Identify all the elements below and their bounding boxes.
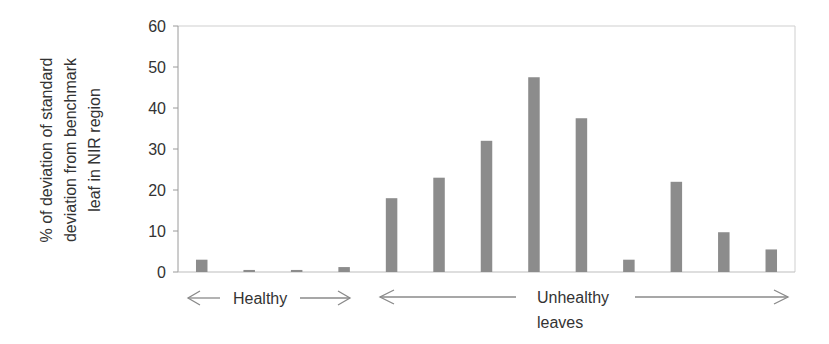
- bars: [196, 77, 777, 272]
- healthy-label: Healthy: [233, 290, 287, 307]
- bar-13: [766, 249, 778, 272]
- bar-1: [196, 260, 208, 272]
- bar-4: [338, 267, 350, 272]
- unhealthy-label-line-2: leaves: [537, 314, 583, 331]
- unhealthy-label: Unhealthy: [537, 289, 609, 306]
- bar-5: [386, 198, 398, 272]
- y-axis-ticks: 0102030405060: [148, 18, 178, 281]
- y-tick-label: 0: [157, 264, 166, 281]
- y-tick-label: 60: [148, 18, 166, 35]
- y-axis-title-line-3: leaf in NIR region: [86, 88, 103, 212]
- bar-9: [576, 118, 588, 272]
- y-axis-title: % of deviation of standard deviation fro…: [38, 57, 103, 243]
- bar-12: [718, 232, 730, 272]
- bar-10: [623, 260, 635, 272]
- y-axis-title-line-2: deviation from benchmark: [62, 57, 79, 242]
- y-tick-label: 20: [148, 182, 166, 199]
- y-axis-title-line-1: % of deviation of standard: [38, 57, 55, 242]
- bar-8: [528, 77, 540, 272]
- bar-3: [291, 270, 303, 272]
- bar-11: [671, 182, 683, 272]
- y-tick-label: 40: [148, 100, 166, 117]
- bar-7: [481, 141, 493, 272]
- bar-2: [243, 270, 255, 272]
- bar-chart: % of deviation of standard deviation fro…: [0, 0, 829, 344]
- y-tick-label: 30: [148, 141, 166, 158]
- y-tick-label: 10: [148, 223, 166, 240]
- y-tick-label: 50: [148, 59, 166, 76]
- bar-6: [433, 178, 445, 272]
